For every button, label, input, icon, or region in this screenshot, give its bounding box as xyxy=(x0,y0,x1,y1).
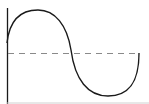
sine-wave-diagram xyxy=(0,0,149,104)
